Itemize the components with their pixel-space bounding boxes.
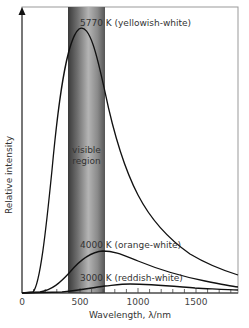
curve-5770k bbox=[22, 28, 238, 293]
label-3000k: 3000 K (reddish-white) bbox=[80, 273, 183, 283]
label-4000k: 4000 K (orange-white) bbox=[80, 240, 181, 250]
x-tick-label-0: 0 bbox=[19, 297, 25, 307]
x-tick-label-1500: 1500 bbox=[185, 297, 208, 307]
x-axis-label: Wavelength, λ/nm bbox=[89, 310, 171, 320]
label-visible-line1: visible bbox=[72, 145, 101, 155]
curve-4000k bbox=[22, 251, 238, 293]
y-axis-label: Relative intensity bbox=[4, 135, 14, 214]
x-tick-label-1000: 1000 bbox=[127, 297, 150, 307]
x-tick-label-500: 500 bbox=[71, 297, 88, 307]
blackbody-chart: 5770 K (yellowish-white) visible region … bbox=[0, 0, 249, 328]
label-visible-line2: region bbox=[72, 156, 100, 166]
y-axis-arrow-icon bbox=[19, 7, 26, 15]
label-5770k: 5770 K (yellowish-white) bbox=[80, 18, 191, 28]
curve-3000k bbox=[22, 284, 238, 293]
